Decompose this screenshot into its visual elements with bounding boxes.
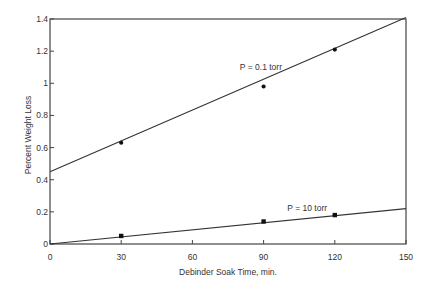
y-tick-label: 0 <box>43 239 48 249</box>
x-tick-label: 30 <box>116 252 126 262</box>
y-tick-label: 1 <box>43 78 48 88</box>
square-marker <box>119 234 123 238</box>
y-tick-label: 1.2 <box>36 46 48 56</box>
circle-marker <box>262 84 266 88</box>
y-tick-label: 0.8 <box>36 110 48 120</box>
series-annotations: P = 0.1 torrP = 10 torr <box>240 62 327 213</box>
y-tick-label: 0.2 <box>36 207 48 217</box>
x-tick-label: 120 <box>328 252 342 262</box>
circle-marker <box>333 47 337 51</box>
y-tick-label: 1.4 <box>36 14 48 24</box>
x-tick-label: 150 <box>399 252 413 262</box>
x-tick-label: 90 <box>259 252 269 262</box>
square-marker <box>333 213 337 217</box>
y-tick-label: 0.6 <box>36 143 48 153</box>
circle-marker <box>119 141 123 145</box>
square-marker <box>261 219 265 223</box>
line-fit-chart: 00.20.40.60.811.21.4 0306090120150 P = 0… <box>0 0 431 289</box>
y-axis-ticks: 00.20.40.60.811.21.4 <box>36 14 54 249</box>
plot-border <box>50 19 406 244</box>
x-axis-title: Debinder Soak Time, min. <box>179 267 277 277</box>
fit-line-series-1 <box>50 209 406 244</box>
x-axis-ticks: 0306090120150 <box>48 240 414 262</box>
series-label: P = 10 torr <box>287 203 327 213</box>
x-tick-label: 0 <box>48 252 53 262</box>
y-tick-label: 0.4 <box>36 175 48 185</box>
fit-line-series-0 <box>50 17 406 171</box>
y-axis-title: Percent Weight Loss <box>23 96 33 174</box>
series-label: P = 0.1 torr <box>240 62 282 72</box>
x-tick-label: 60 <box>188 252 198 262</box>
fit-lines <box>50 17 406 244</box>
plot-frame <box>50 19 406 244</box>
